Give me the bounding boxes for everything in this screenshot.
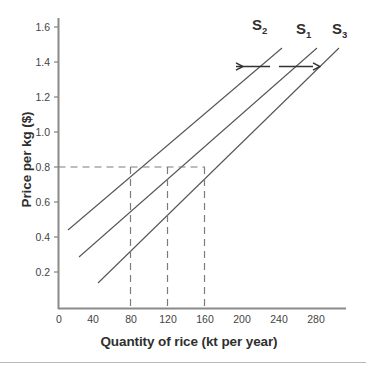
y-tick-label-0-2: 0.2: [24, 266, 50, 278]
series-label-s3-text: S: [332, 20, 342, 37]
supply-curve-chart: 1.6 1.4 1.2 1.0 0.8 0.6 0.4 0.2 0 40 80 …: [0, 0, 366, 370]
series-label-s3: S3: [332, 20, 347, 40]
x-tick-label-40: 40: [78, 313, 108, 325]
x-tick-label-240: 240: [264, 313, 294, 325]
supply-line-s2: [68, 48, 282, 230]
x-tick-label-200: 200: [227, 313, 257, 325]
y-tick-label-1-4: 1.4: [24, 56, 50, 68]
series-label-s2-sub: 2: [262, 25, 267, 36]
x-tick-label-280: 280: [301, 313, 331, 325]
x-tick-label-0: 0: [44, 313, 74, 325]
x-tick-label-80: 80: [116, 313, 146, 325]
y-axis-title: Price per kg ($): [19, 70, 34, 250]
bottom-divider: [0, 362, 366, 363]
series-label-s1-sub: 1: [306, 29, 311, 40]
series-label-s1-text: S: [296, 20, 306, 37]
series-label-s1: S1: [296, 20, 311, 40]
series-label-s2-text: S: [252, 16, 262, 33]
series-label-s3-sub: 3: [342, 29, 347, 40]
series-label-s2: S2: [252, 16, 267, 36]
y-tick-label-1-6: 1.6: [24, 21, 50, 33]
x-tick-label-120: 120: [153, 313, 183, 325]
x-tick-label-160: 160: [190, 313, 220, 325]
supply-line-s3: [98, 48, 339, 283]
supply-line-s1: [79, 48, 317, 257]
x-axis-title: Quantity of rice (kt per year): [34, 334, 344, 349]
